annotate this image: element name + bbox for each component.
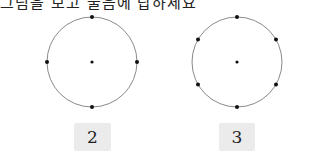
circumference-point (274, 83, 278, 87)
center-point (90, 60, 93, 63)
answer-label-1: 2 (74, 123, 111, 151)
circle-figure-2 (192, 15, 282, 109)
circumference-point (196, 38, 200, 42)
circumference-point (90, 15, 94, 19)
circumference-point (90, 105, 94, 109)
circle-figure-1 (45, 15, 139, 109)
circumference-point (235, 15, 239, 19)
circumference-point (196, 83, 200, 87)
circumference-point (274, 38, 278, 42)
circumference-point (235, 105, 239, 109)
center-point (235, 60, 238, 63)
circumference-point (135, 60, 139, 64)
answer-label-2: 3 (219, 123, 255, 151)
circumference-point (45, 60, 49, 64)
